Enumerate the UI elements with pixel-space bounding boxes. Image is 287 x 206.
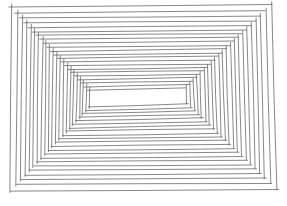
ring-16-edge-left xyxy=(72,70,74,126)
ring-1-edge-right xyxy=(266,8,271,183)
ring-14-edge-top xyxy=(64,64,210,65)
ring-19-edge-right xyxy=(193,78,195,110)
ring-8-edge-top xyxy=(43,41,234,43)
ring-6-edge-bottom xyxy=(37,160,248,162)
ring-7-edge-right xyxy=(238,35,241,156)
ring-14-edge-right xyxy=(211,61,213,130)
ring-14-edge-left xyxy=(66,63,68,133)
ring-20-edge-left xyxy=(86,84,87,112)
ring-15-edge-top xyxy=(68,67,208,69)
ring-6-edge-top xyxy=(36,34,242,35)
ring-12-edge-top xyxy=(58,56,219,58)
ring-11-edge-bottom xyxy=(56,140,227,142)
ring-9-edge-bottom xyxy=(49,149,235,151)
ring-1-edge-left xyxy=(16,10,18,186)
ring-8-edge-bottom xyxy=(45,152,239,154)
ring-4-edge-right xyxy=(251,22,255,168)
ring-3-edge-top xyxy=(24,21,256,23)
ring-16-edge-bottom xyxy=(72,122,207,125)
ring-13-edge-left xyxy=(63,59,64,136)
ring-12-edge-left xyxy=(59,56,61,141)
ring-20-edge-right xyxy=(190,82,191,108)
ring-13-edge-right xyxy=(215,57,218,133)
ring-15-edge-bottom xyxy=(69,125,211,128)
ring-21-edge-left xyxy=(89,87,90,109)
ring-5-edge-left xyxy=(33,29,35,168)
nested-rectangles-drawing xyxy=(0,0,287,206)
ring-1-edge-top xyxy=(15,11,265,14)
ring-18-edge-top xyxy=(77,77,197,80)
ring-7-edge-left xyxy=(41,37,43,160)
ring-4-edge-bottom xyxy=(29,169,256,170)
ring-4-edge-left xyxy=(29,24,31,172)
ring-2-edge-left xyxy=(20,15,22,181)
ring-21-edge-top xyxy=(87,88,186,90)
ring-17-edge-bottom xyxy=(76,118,204,121)
ring-17-edge-right xyxy=(200,71,201,118)
ring-8-edge-right xyxy=(234,39,237,153)
ring-5-edge-right xyxy=(247,27,251,165)
ring-1-edge-bottom xyxy=(17,184,272,185)
ring-11-edge-top xyxy=(54,53,222,55)
ring-6-edge-right xyxy=(243,31,247,160)
ring-19-edge-left xyxy=(82,80,83,115)
ring-18-edge-right xyxy=(196,75,198,114)
ring-12-edge-bottom xyxy=(59,137,223,139)
ring-15-edge-right xyxy=(208,64,210,125)
ring-3-edge-left xyxy=(25,20,27,177)
ring-11-edge-left xyxy=(55,52,57,144)
ring-3-edge-bottom xyxy=(25,174,261,176)
ring-18-edge-bottom xyxy=(79,115,200,117)
ring-10-edge-top xyxy=(51,49,227,52)
ring-10-edge-left xyxy=(52,48,54,148)
ring-0-edge-bottom xyxy=(11,190,279,192)
ring-20-edge-bottom xyxy=(86,108,193,111)
ring-7-edge-bottom xyxy=(41,157,243,159)
ring-15-edge-left xyxy=(70,66,71,129)
ring-13-edge-bottom xyxy=(62,133,218,135)
ring-7-edge-top xyxy=(40,37,238,39)
ring-2-edge-right xyxy=(260,13,264,179)
ring-2-edge-bottom xyxy=(21,178,266,180)
ring-9-edge-right xyxy=(231,42,234,148)
ring-16-edge-top xyxy=(71,71,204,73)
ring-10-edge-right xyxy=(226,46,229,145)
ring-19-edge-top xyxy=(81,81,193,83)
ring-20-edge-top xyxy=(84,85,190,88)
ring-4-edge-top xyxy=(28,26,251,28)
ring-11-edge-right xyxy=(222,50,225,141)
ring-19-edge-bottom xyxy=(82,111,196,114)
ring-0-edge-left xyxy=(10,4,12,193)
ring-0-edge-top xyxy=(9,5,272,8)
ring-9-edge-top xyxy=(47,46,230,48)
ring-10-edge-bottom xyxy=(52,144,231,146)
ring-17-edge-left xyxy=(76,73,78,122)
ring-0-edge-right xyxy=(272,2,277,190)
ring-17-edge-top xyxy=(74,74,199,76)
ring-5-edge-top xyxy=(32,30,247,32)
ring-12-edge-right xyxy=(219,54,221,137)
ring-3-edge-right xyxy=(256,18,260,174)
ring-8-edge-left xyxy=(45,41,46,156)
ring-16-edge-right xyxy=(204,68,206,122)
ring-21-edge-bottom xyxy=(88,104,188,107)
ring-13-edge-top xyxy=(61,60,215,62)
ring-2-edge-top xyxy=(20,16,261,18)
ring-6-edge-left xyxy=(37,33,38,164)
ring-9-edge-left xyxy=(48,44,49,151)
ring-14-edge-bottom xyxy=(66,129,215,131)
ring-5-edge-bottom xyxy=(34,165,252,166)
